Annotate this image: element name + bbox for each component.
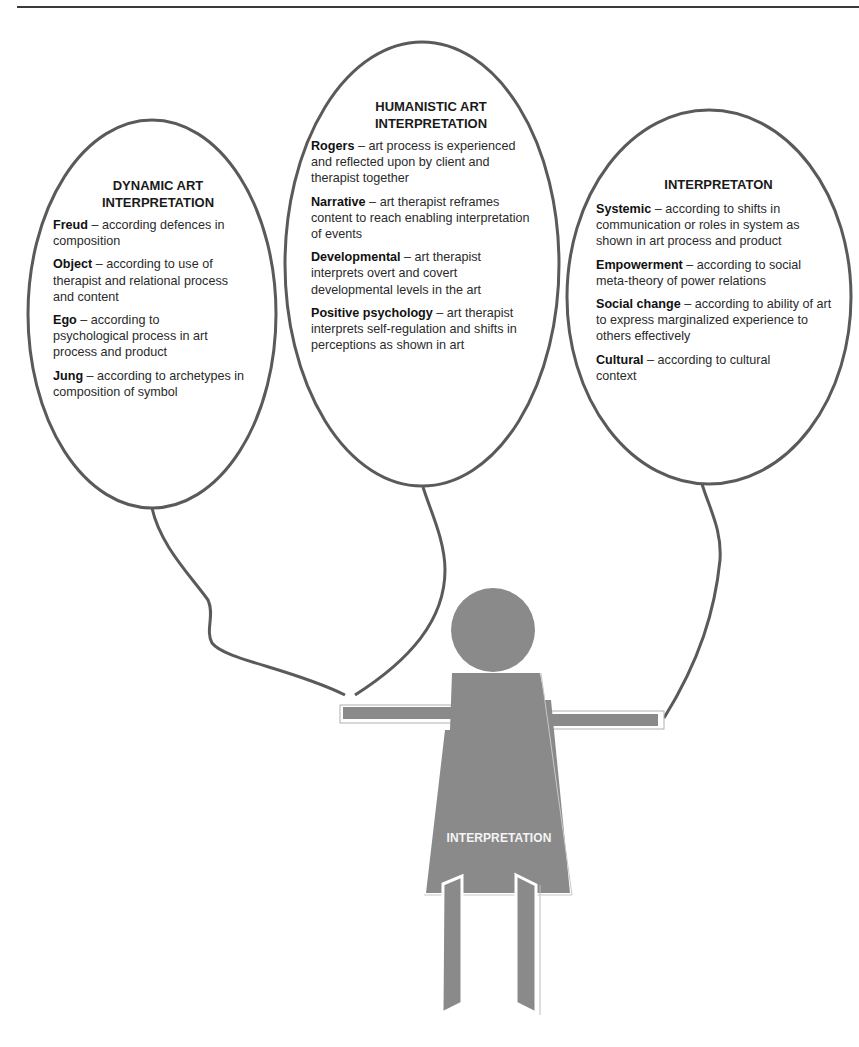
entry-term: Developmental xyxy=(311,250,401,264)
title-line: INTERPRETATON xyxy=(596,176,841,193)
entry-term: Ego xyxy=(53,313,77,327)
entry-systemic: Systemic – according to shifts in commun… xyxy=(596,201,838,250)
balloon-title: INTERPRETATON xyxy=(596,176,841,193)
string-right xyxy=(664,484,720,718)
entry-term: Object xyxy=(53,257,92,271)
entry-term: Cultural xyxy=(596,353,644,367)
figure-left-leg xyxy=(442,876,462,1013)
balloon-dynamic-art: DYNAMIC ART INTERPRETATION Freud – accor… xyxy=(53,177,263,407)
entry-social-change: Social change – according to ability of … xyxy=(596,296,836,345)
entry-sep: – xyxy=(651,202,665,216)
entry-sep: – xyxy=(401,250,415,264)
figure-person xyxy=(340,588,664,1015)
entry-rogers: Rogers – art process is experienced and … xyxy=(311,138,516,187)
entry-term: Narrative xyxy=(311,195,366,209)
balloon-title: HUMANISTIC ART INTERPRETATION xyxy=(311,98,551,132)
entry-term: Empowerment xyxy=(596,258,683,272)
entry-term: Positive psychology xyxy=(311,306,433,320)
entry-narrative: Narrative – art therapist reframes conte… xyxy=(311,194,533,243)
entry-sep: – xyxy=(366,195,380,209)
entry-sep: – xyxy=(88,218,102,232)
entry-sep: – xyxy=(683,258,697,272)
entry-developmental: Developmental – art therapist interprets… xyxy=(311,249,516,298)
entry-term: Rogers xyxy=(311,139,354,153)
figure-label: INTERPRETATION xyxy=(432,831,566,845)
entry-sep: – xyxy=(83,369,97,383)
entry-empowerment: Empowerment – according to social meta-t… xyxy=(596,257,836,289)
balloon-humanistic-art: HUMANISTIC ART INTERPRETATION Rogers – a… xyxy=(311,98,551,360)
entry-term: Social change xyxy=(596,297,681,311)
entry-term: Jung xyxy=(53,369,83,383)
entry-term: Freud xyxy=(53,218,88,232)
entry-freud: Freud – according defences in compositio… xyxy=(53,217,263,249)
entry-term: Systemic xyxy=(596,202,651,216)
title-line: INTERPRETATION xyxy=(53,194,263,211)
title-line: HUMANISTIC ART xyxy=(311,98,551,115)
entry-sep: – xyxy=(92,257,106,271)
figure-right-leg xyxy=(516,875,536,1013)
string-left xyxy=(152,508,345,695)
balloon-title: DYNAMIC ART INTERPRETATION xyxy=(53,177,263,211)
entry-sep: – xyxy=(644,353,658,367)
entry-cultural: Cultural – according to cultural context xyxy=(596,352,801,384)
entry-ego: Ego – according to psychological process… xyxy=(53,312,233,361)
entry-sep: – xyxy=(433,306,447,320)
string-middle xyxy=(355,487,445,695)
title-line: DYNAMIC ART xyxy=(53,177,263,194)
entry-sep: – xyxy=(77,313,91,327)
entry-sep: – xyxy=(681,297,695,311)
entry-jung: Jung – according to archetypes in compos… xyxy=(53,368,258,400)
entry-positive-psychology: Positive psychology – art therapist inte… xyxy=(311,305,547,354)
entry-sep: – xyxy=(354,139,368,153)
title-line: INTERPRETATION xyxy=(311,115,551,132)
entry-object: Object – according to use of therapist a… xyxy=(53,256,233,305)
balloon-interpretation: INTERPRETATON Systemic – according to sh… xyxy=(596,176,841,391)
